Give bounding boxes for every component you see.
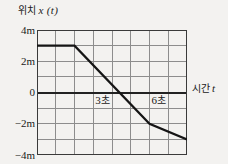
x-axis-title: 시간t — [192, 82, 215, 95]
x-axis-title-korean: 시간 — [192, 83, 210, 94]
y-axis-title-math: x (t) — [37, 4, 59, 16]
t6-marker-unit: 초 — [157, 95, 166, 106]
plot-area — [37, 30, 187, 155]
y-tick-label: −4m — [1, 150, 35, 161]
y-tick-label: 2m — [1, 56, 35, 67]
y-tick-label: 4m — [1, 25, 35, 36]
t3-marker: 3초 — [95, 95, 110, 106]
t3-marker-unit: 초 — [101, 95, 110, 106]
graph-screenshot: 위치x (t) 시간t 4m 2m 0 −2m −4m 3초 6초 — [0, 0, 228, 164]
t6-marker: 6초 — [152, 95, 167, 106]
y-tick-label: 0 — [1, 87, 35, 98]
plot-svg — [37, 30, 187, 155]
x-axis-title-math: t — [210, 82, 215, 94]
y-tick-label-group: 4m 2m 0 −2m −4m — [0, 0, 35, 164]
y-tick-label: −2m — [1, 118, 35, 129]
